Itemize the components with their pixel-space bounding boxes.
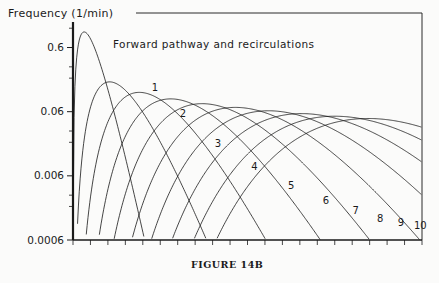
- curve-label-9: 9: [398, 217, 404, 228]
- y-tick-labels-group: 0.60.060.0060.0006: [27, 41, 64, 245]
- curve-label-1: 1: [152, 82, 158, 93]
- curve-4: [99, 99, 320, 240]
- plot-title: Forward pathway and recirculations: [113, 38, 314, 50]
- y-tick-label: 0.06: [41, 105, 65, 117]
- curve-label-7: 7: [353, 205, 359, 216]
- figure-caption: FIGURE 14B: [191, 259, 263, 270]
- curve-1: [73, 32, 144, 237]
- curve-10: [217, 118, 421, 238]
- frequency-chart: Frequency (1/min) 0.60.060.0060.0006 For…: [0, 0, 439, 283]
- curves-group: [73, 32, 421, 240]
- curve-label-5: 5: [288, 180, 294, 191]
- curve-label-8: 8: [377, 213, 383, 224]
- curve-label-6: 6: [323, 195, 329, 206]
- y-axis-title: Frequency (1/min): [8, 7, 113, 20]
- curve-label-3: 3: [215, 138, 221, 149]
- curve-3: [86, 92, 265, 238]
- curve-label-4: 4: [251, 161, 257, 172]
- curve-8: [173, 114, 422, 239]
- y-tick-label: 0.0006: [27, 234, 64, 246]
- curve-label-2: 2: [180, 108, 186, 119]
- figure-container: Frequency (1/min) 0.60.060.0060.0006 For…: [0, 0, 439, 283]
- curve-label-10: 10: [414, 220, 427, 231]
- y-tick-label: 0.6: [47, 41, 64, 53]
- y-tick-label: 0.006: [34, 169, 64, 181]
